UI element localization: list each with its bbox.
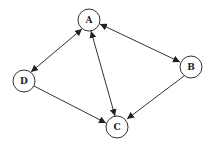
node-b: B [180,56,202,78]
edge-a-b [100,24,180,62]
node-c-label: C [113,122,120,132]
edge-d-c [34,86,106,123]
node-c: C [106,116,128,138]
graph-canvas: A B C D [0,0,210,156]
node-a-label: A [85,15,94,25]
node-b-label: B [187,62,195,72]
edge-a-d [31,29,82,72]
node-d: D [13,70,35,92]
edge-a-c [91,31,115,116]
node-d-label: D [20,76,28,86]
edge-b-c [127,76,184,119]
node-a: A [78,9,100,31]
